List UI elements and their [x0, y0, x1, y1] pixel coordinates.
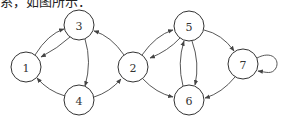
edge-3-1 — [41, 37, 70, 57]
svg-text:5: 5 — [186, 21, 193, 34]
node-1: 1 — [11, 52, 41, 82]
edge-5-6 — [192, 41, 197, 85]
node-5: 5 — [174, 11, 204, 41]
edge-1-3 — [35, 29, 64, 55]
node-6: 6 — [174, 85, 204, 115]
edge-3-4 — [85, 39, 89, 86]
edge-2-6 — [143, 79, 173, 97]
svg-text:7: 7 — [240, 59, 247, 72]
node-2: 2 — [118, 52, 148, 82]
svg-text:2: 2 — [130, 62, 137, 75]
edge-5-7 — [204, 30, 234, 51]
edge-4-1 — [37, 78, 65, 96]
edge-7-6 — [205, 77, 235, 98]
edge-6-5 — [180, 41, 184, 86]
edge-2-5 — [142, 30, 173, 55]
node-3: 3 — [64, 10, 94, 40]
svg-text:1: 1 — [23, 62, 30, 75]
edge-4-2 — [94, 79, 121, 97]
node-7: 7 — [228, 49, 258, 79]
edge-7-7 — [257, 55, 277, 72]
node-4: 4 — [64, 85, 94, 115]
edge-2-3 — [94, 31, 124, 55]
svg-text:3: 3 — [76, 20, 83, 33]
svg-text:6: 6 — [186, 95, 193, 108]
svg-text:4: 4 — [76, 95, 83, 108]
directed-graph: 1 2 3 4 5 6 7 — [0, 0, 286, 125]
